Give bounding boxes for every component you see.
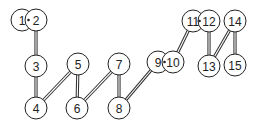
node-label: 15	[228, 59, 242, 73]
node-label: 4	[33, 102, 40, 116]
node-7: 7	[108, 53, 130, 75]
connector-dot	[27, 19, 30, 22]
connector-dot	[163, 61, 166, 64]
node-14: 14	[224, 10, 246, 32]
path-diagram: 123456789101112131415	[0, 0, 261, 128]
node-5: 5	[67, 53, 89, 75]
node-label: 6	[74, 102, 81, 116]
node-label: 8	[116, 102, 123, 116]
node-label: 3	[33, 60, 40, 74]
node-label: 12	[202, 15, 216, 29]
node-3: 3	[25, 55, 47, 77]
node-label: 7	[116, 58, 123, 72]
node-label: 14	[228, 15, 242, 29]
node-4: 4	[25, 97, 47, 119]
node-13: 13	[198, 55, 220, 77]
node-label: 5	[75, 58, 82, 72]
node-label: 9	[155, 56, 162, 70]
node-6: 6	[66, 97, 88, 119]
node-label: 10	[166, 56, 180, 70]
node-12: 12	[198, 10, 220, 32]
node-label: 13	[202, 60, 216, 74]
node-8: 8	[108, 97, 130, 119]
node-label: 2	[33, 14, 40, 28]
connector-dot	[198, 20, 201, 23]
node-15: 15	[224, 54, 246, 76]
nodes-layer: 123456789101112131415	[11, 9, 246, 119]
